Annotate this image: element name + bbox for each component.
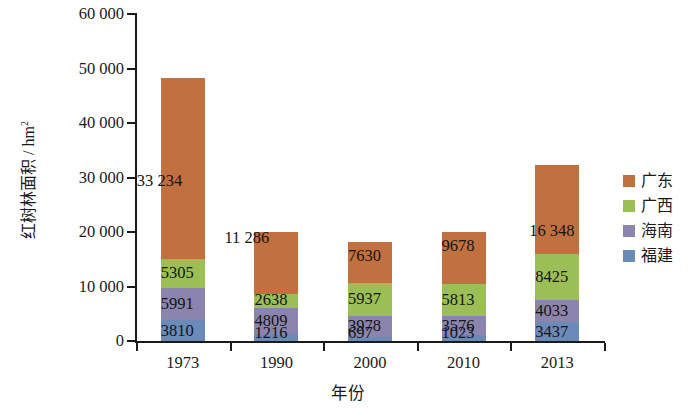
legend-item-广东[interactable]: 广东 [623,168,695,193]
bar-value-label-海南: 5991 [161,296,194,313]
legend-swatch-icon [623,250,635,262]
legend-item-海南[interactable]: 海南 [623,218,695,243]
x-axis-tick [417,343,419,351]
mangrove-area-stacked-bar-chart: 010 00020 00030 00040 00050 00060 000 19… [0,0,695,408]
bar-value-label-海南: 3576 [442,318,475,335]
bar-value-label-广东: 9678 [442,238,475,255]
bar-value-label-海南: 4809 [254,313,287,330]
legend-swatch-icon [623,175,635,187]
bar-value-label-广西: 5937 [348,291,381,308]
x-axis-tick-label: 1973 [143,355,223,372]
legend-label: 广西 [641,198,673,214]
y-axis-tick [127,68,135,70]
x-axis-tick [230,343,232,351]
bar-value-label-广东: 33 234 [137,173,182,190]
y-axis-tick-label: 0 [0,333,124,350]
y-axis-tick [127,13,135,15]
bar-value-label-广东: 7630 [348,248,381,265]
y-axis-tick [127,340,135,342]
bar-segment-广东 [161,78,205,259]
legend-item-广西[interactable]: 广西 [623,193,695,218]
bar-value-label-广东: 16 348 [529,223,574,240]
bar-value-label-广东: 11 286 [224,230,269,247]
y-axis-tick [127,231,135,233]
bar-value-label-广西: 8425 [535,269,568,286]
x-axis-tick-label: 2000 [330,355,410,372]
bar-value-label-海南: 3978 [348,318,381,335]
x-axis-tick-label: 2013 [517,355,597,372]
legend-label: 海南 [641,223,673,239]
legend-swatch-icon [623,225,635,237]
bar-value-label-广西: 2638 [254,292,287,309]
x-axis-tick [323,343,325,351]
y-axis-tick [127,177,135,179]
legend-item-福建[interactable]: 福建 [623,243,695,268]
bar-value-label-广西: 5305 [161,265,194,282]
x-axis-tick-label: 2010 [424,355,504,372]
x-axis-tick-label: 1990 [236,355,316,372]
bar-value-label-海南: 4033 [535,303,568,320]
x-axis-title: 年份 [0,380,695,404]
legend: 广东广西海南福建 [623,168,695,268]
bar-group [535,14,579,341]
y-axis-title: 红树林面积 / hm2 [15,65,39,295]
legend-label: 广东 [641,173,673,189]
legend-swatch-icon [623,200,635,212]
y-axis-title-exponent: 2 [19,121,30,126]
x-axis-tick [510,343,512,351]
bar-value-label-福建: 3810 [161,323,194,340]
legend-label: 福建 [641,248,673,264]
bar-segment-广东 [535,165,579,254]
x-axis-tick [604,343,606,351]
y-axis-tick [127,122,135,124]
bar-value-label-福建: 3437 [535,324,568,341]
y-axis-tick-label: 60 000 [0,6,124,23]
x-axis-tick [136,343,138,351]
bar-value-label-广西: 5813 [442,292,475,309]
y-axis-title-text: 红树林面积 / hm [20,126,37,239]
y-axis-tick [127,286,135,288]
